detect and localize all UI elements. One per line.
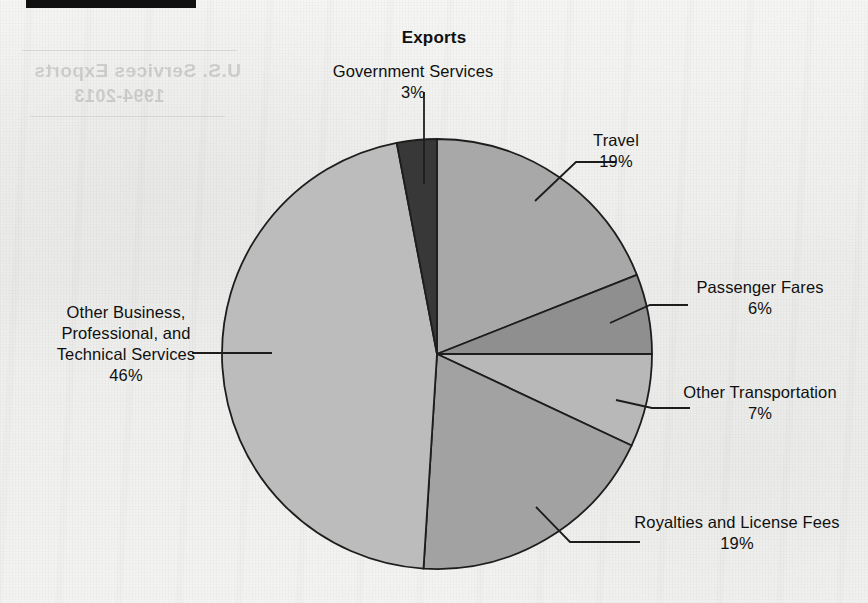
slice-label-other-business-services-line-2: Professional, and: [61, 324, 190, 342]
slice-label-other-business-services-percent: 46%: [8, 365, 244, 386]
slice-label-other-business-services: Other Business, Professional, and Techni…: [8, 302, 244, 386]
slice-label-government-services: Government Services 3%: [293, 61, 533, 103]
slice-label-travel: Travel 19%: [546, 130, 686, 172]
slice-label-travel-percent: 19%: [546, 151, 686, 172]
slice-label-royalties-license-fees-text: Royalties and License Fees: [634, 513, 839, 531]
slice-label-government-services-text: Government Services: [333, 62, 494, 80]
slice-label-government-services-percent: 3%: [293, 82, 533, 103]
pie-slice-other-business-professional-and-technical-services[interactable]: [222, 143, 437, 569]
slice-label-passenger-fares-text: Passenger Fares: [696, 278, 823, 296]
slice-label-other-business-services-line-1: Other Business,: [67, 303, 186, 321]
slice-label-passenger-fares-percent: 6%: [660, 298, 860, 319]
slice-label-royalties-license-fees-percent: 19%: [612, 533, 862, 554]
slice-label-passenger-fares: Passenger Fares 6%: [660, 277, 860, 319]
slice-label-other-transportation-percent: 7%: [660, 403, 860, 424]
slice-label-other-transportation-text: Other Transportation: [683, 383, 836, 401]
slice-label-other-transportation: Other Transportation 7%: [660, 382, 860, 424]
slice-label-other-business-services-line-3: Technical Services: [57, 345, 195, 363]
pie-slices: [222, 139, 652, 569]
scanned-page: U.S. Services Exports 1994-2013 Exports …: [0, 0, 868, 603]
slice-label-travel-text: Travel: [593, 131, 639, 149]
slice-label-royalties-license-fees: Royalties and License Fees 19%: [612, 512, 862, 554]
